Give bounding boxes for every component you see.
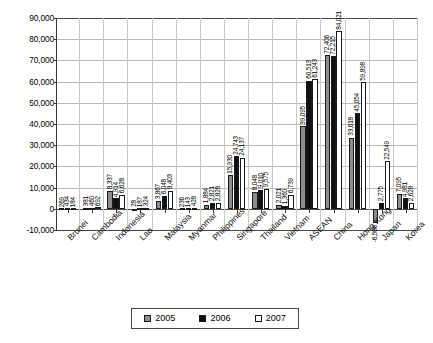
legend-label: 2006	[210, 314, 230, 323]
y-axis-tick-label: 80,000	[2, 35, 54, 43]
bar-value-label: 6,739	[288, 178, 294, 193]
y-axis-tick-label: 20,000	[2, 162, 54, 170]
bar-2006	[234, 156, 239, 208]
y-axis-tick-label: 0	[2, 205, 54, 213]
bar-2005	[228, 175, 233, 209]
bar-group: 8,0489,0109,575	[249, 18, 273, 230]
bar-2006	[89, 208, 94, 210]
bar-2007	[336, 31, 341, 209]
category-column: 381460692	[80, 18, 104, 230]
bars-layer: 2694341843814606928,3374,9146,6282818732…	[56, 18, 418, 230]
bar-2006	[162, 196, 167, 209]
bar-2005	[252, 192, 257, 209]
category-column: 39,09560,51361,243	[297, 18, 321, 230]
bar-2006	[258, 190, 263, 209]
category-column: 3,8676,0488,403	[153, 18, 177, 230]
bar-value-label: 2,775	[378, 186, 384, 201]
bar-2007	[361, 82, 366, 209]
bar-value-label: 184	[70, 197, 76, 207]
bar-2005	[180, 208, 185, 210]
category-column: 8,3374,9146,628	[104, 18, 128, 230]
bar-2007	[95, 207, 100, 209]
bar-2006	[355, 113, 360, 209]
bar-2005	[83, 208, 88, 210]
y-axis-tick-label: -10,000	[2, 226, 54, 234]
bar-group: 3,8676,0488,403	[153, 18, 177, 230]
legend-label: 2007	[266, 314, 286, 323]
bar-value-label: 33,618	[348, 117, 354, 136]
bar-value-label: 84,021	[336, 11, 342, 30]
bar-2006	[65, 208, 70, 210]
bar-value-label: 72,215	[330, 36, 336, 55]
bar-chart: 90,00080,00070,00060,00050,00040,00030,0…	[0, 0, 433, 343]
bar-group: 28187324	[128, 18, 152, 230]
bar-2007	[409, 203, 414, 209]
y-axis-tick-label: 60,000	[2, 78, 54, 86]
bar-2005	[325, 55, 330, 209]
bar-group: 33,61845,05459,898	[346, 18, 370, 230]
category-column: 8,0489,0109,575	[249, 18, 273, 230]
category-column: 236143428	[177, 18, 201, 230]
bar-2007	[71, 208, 76, 210]
category-column: 33,61845,05459,898	[346, 18, 370, 230]
bar-value-label: 8,403	[167, 174, 173, 189]
bar-group: -6,5062,77522,549	[370, 18, 394, 230]
bar-2007	[385, 161, 390, 209]
bar-2006	[331, 56, 336, 209]
category-column: 7,0954,9812,628	[394, 18, 418, 230]
bar-2007	[143, 208, 148, 210]
legend-swatch-icon	[144, 315, 151, 322]
bar-value-label: 6,628	[119, 178, 125, 193]
bar-group: 1,8842,8212,828	[201, 18, 225, 230]
bar-value-label: 2,628	[408, 186, 414, 201]
bar-2007	[312, 79, 317, 209]
bar-value-label: 15,930	[227, 155, 233, 174]
bar-value-label: 9,575	[263, 172, 269, 187]
bar-2006	[282, 206, 287, 209]
y-axis-tick-label: 70,000	[2, 56, 54, 64]
y-axis-tick-label: 10,000	[2, 184, 54, 192]
legend-item-2005[interactable]: 2005	[144, 314, 175, 323]
bar-2005	[276, 205, 281, 209]
bar-2007	[192, 208, 197, 210]
category-column: 72,40672,21584,021	[321, 18, 345, 230]
bar-2007	[168, 191, 173, 209]
bar-value-label: 24,137	[239, 137, 245, 156]
bar-value-label: 2,828	[215, 186, 221, 201]
bar-value-label: 59,898	[360, 62, 366, 81]
bar-group: 39,09560,51361,243	[297, 18, 321, 230]
y-axis: 90,00080,00070,00060,00050,00040,00030,0…	[0, 18, 54, 230]
bar-2007	[216, 203, 221, 209]
legend-item-2007[interactable]: 2007	[255, 314, 286, 323]
y-axis-tick-label: 50,000	[2, 99, 54, 107]
category-column: 15,93024,74324,137	[225, 18, 249, 230]
chart-legend: 200520062007	[131, 308, 299, 329]
y-axis-tick-label: 90,000	[2, 14, 54, 22]
legend-label: 2005	[155, 314, 175, 323]
x-axis-labels: BruneiCambodiaIndonesiaLaoMalaysiaMyanma…	[56, 232, 418, 306]
y-axis-tick-label: 40,000	[2, 120, 54, 128]
bar-value-label: 22,549	[384, 141, 390, 160]
bar-2005	[204, 205, 209, 209]
bar-2006	[306, 81, 311, 209]
category-column: 1,8842,8212,828	[201, 18, 225, 230]
bar-2005	[156, 201, 161, 209]
bar-2007	[119, 195, 124, 209]
bar-value-label: 428	[191, 196, 197, 206]
category-column: 269434184	[56, 18, 80, 230]
bar-group: 381460692	[80, 18, 104, 230]
bar-2007	[288, 195, 293, 209]
bar-value-label: 692	[95, 196, 101, 206]
category-column: 2,0211,3606,739	[273, 18, 297, 230]
bar-group: 15,93024,74324,137	[225, 18, 249, 230]
bar-value-label: 324	[143, 196, 149, 206]
category-column: -6,5062,77522,549	[370, 18, 394, 230]
bar-group: 269434184	[56, 18, 80, 230]
bar-2007	[264, 189, 269, 209]
bar-2005	[300, 126, 305, 209]
legend-item-2006[interactable]: 2006	[199, 314, 230, 323]
bar-2006	[210, 203, 215, 209]
bar-group: 8,3374,9146,628	[104, 18, 128, 230]
bar-value-label: 39,095	[300, 106, 306, 125]
bar-value-label: 61,243	[312, 59, 318, 78]
